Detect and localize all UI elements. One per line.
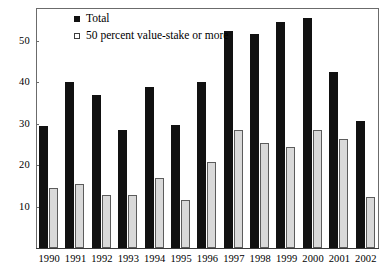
y-axis-tick-label: 20 [19, 159, 30, 170]
y-axis-tick-label: 30 [19, 118, 30, 129]
bar-stake [234, 130, 243, 248]
legend-label-total: Total [86, 12, 109, 25]
y-axis-tick-label: 40 [19, 76, 30, 87]
bar-stake [366, 197, 375, 248]
bar-stake [128, 195, 137, 248]
bar-total [118, 130, 127, 248]
legend-swatch-total-icon [74, 16, 80, 22]
legend-item-total: Total [74, 11, 314, 26]
x-axis-baseline [36, 248, 379, 249]
y-axis-tick-label: 50 [19, 35, 30, 46]
bar-stake [286, 147, 295, 248]
bar-stake [313, 130, 322, 248]
bar-total [92, 95, 101, 248]
bar-stake [155, 178, 164, 248]
y-axis-tick-label: 10 [19, 201, 30, 212]
legend-swatch-stake-icon [74, 33, 80, 39]
bar-total [329, 72, 338, 248]
bar-group [353, 8, 379, 248]
bar-stake [181, 200, 190, 248]
bar-stake [207, 162, 216, 248]
bar-total [65, 82, 74, 248]
bar-total [250, 34, 259, 248]
bar-stake [75, 184, 84, 248]
bar-stake [49, 188, 58, 248]
bar-group [326, 8, 352, 248]
bar-total [276, 22, 285, 248]
bar-total [197, 82, 206, 248]
chart-legend: Total 50 percent value-stake or more [74, 11, 314, 45]
bar-stake [260, 143, 269, 248]
bar-stake [102, 195, 111, 248]
bar-total [39, 126, 48, 248]
bar-group [36, 8, 62, 248]
bar-total [171, 125, 180, 248]
bar-total [303, 18, 312, 248]
x-axis-tick-label: 2002 [348, 252, 384, 265]
bar-total [224, 31, 233, 248]
x-axis-labels: 1990199119921993199419951996199719981999… [36, 252, 379, 272]
bar-total [145, 87, 154, 248]
bar-chart-figure: 1020304050 19901991199219931994199519961… [0, 0, 389, 279]
bar-total [356, 121, 365, 248]
bar-stake [339, 139, 348, 248]
legend-label-stake: 50 percent value-stake or more [86, 29, 228, 42]
legend-item-stake: 50 percent value-stake or more [74, 28, 314, 43]
